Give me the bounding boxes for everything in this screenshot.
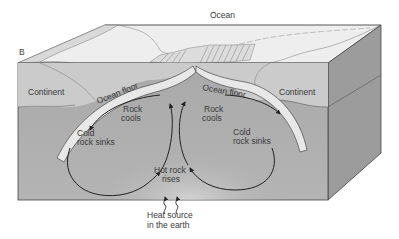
label-cold-sinks-right-2: rock sinks xyxy=(233,136,271,146)
label-cold-sinks-left-2: rock sinks xyxy=(77,137,115,147)
title-ocean: Ocean xyxy=(210,10,235,20)
label-rock-cools-right-2: cools xyxy=(202,113,222,123)
label-continent-right: Continent xyxy=(279,87,316,97)
label-rock-cools-left-2: cools xyxy=(121,113,141,123)
label-continent-left: Continent xyxy=(28,87,65,97)
panel-label: B xyxy=(19,47,25,57)
label-heat-source-1: Heat source xyxy=(147,210,193,220)
label-heat-source-2: in the earth xyxy=(147,220,190,230)
convection-block-diagram: Ocean B Continent Continent Ocean floor … xyxy=(0,0,399,239)
top-surface xyxy=(18,25,381,66)
label-hot-rises-2: rises xyxy=(162,174,180,184)
